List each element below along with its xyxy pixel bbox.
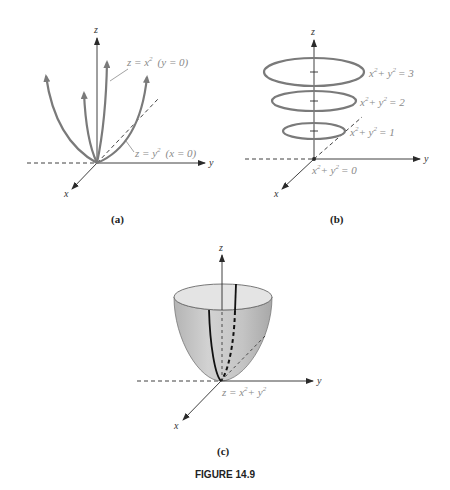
panel-label-a: (a): [111, 213, 124, 226]
panel-b: z y x x2+ y2= 3 x2+ y2= 2 x2+ y2= 1 x2+ …: [245, 26, 429, 226]
parabola-inner-left: [84, 93, 97, 163]
level-curve-label-2: x2+ y2= 2: [359, 95, 405, 108]
level-curve-label-0: x2+ y2= 0: [311, 163, 357, 176]
level-curve-label-1: x2+ y2= 1: [349, 125, 395, 138]
y-axis-label: y: [208, 157, 214, 168]
x-axis-label: x: [63, 188, 69, 199]
z-axis-label: z: [93, 24, 98, 35]
level-curve-label-3: x2+ y2= 3: [368, 66, 414, 79]
x-axis: [72, 163, 97, 189]
panel-c: z y x z = x2+ y2 (c): [137, 242, 322, 458]
leader-line-y-squared: [126, 141, 134, 152]
panel-label-c: (c): [217, 445, 230, 458]
trace-back-curve-visible: [235, 284, 236, 311]
x-axis: [183, 381, 221, 420]
y-axis-label: y: [316, 375, 322, 386]
x-axis-label: x: [273, 188, 279, 199]
parabola-outer-left: [46, 76, 97, 163]
x-axis: [282, 159, 314, 189]
z-axis-label: z: [218, 242, 223, 253]
origin-point: [312, 157, 316, 161]
figure-title: FIGURE 14.9: [195, 469, 255, 480]
figure-canvas: z y x z = x2(y = 0) z = y2(x = 0) (a) z …: [0, 0, 450, 490]
parabola-inner-right: [97, 62, 107, 163]
z-axis-label: z: [310, 26, 315, 37]
x-axis-label: x: [173, 420, 179, 431]
panel-label-b: (b): [330, 213, 344, 226]
leader-line-x-squared: [110, 69, 128, 81]
surface-equation-label: z = x2+ y2: [221, 385, 267, 398]
panel-a: z y x z = x2(y = 0) z = y2(x = 0) (a): [27, 24, 214, 226]
annotation-z-equals-y-squared: z = y2(x = 0): [134, 146, 197, 160]
paraboloid-rim: [174, 284, 272, 310]
annotation-z-equals-x-squared: z = x2(y = 0): [126, 55, 189, 69]
y-axis-label: y: [423, 153, 429, 164]
